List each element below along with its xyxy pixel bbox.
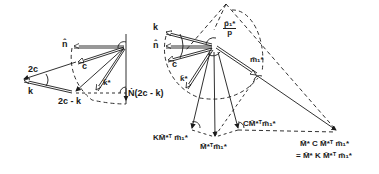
label-CM-m1: CM̃*ᵀm̃₁* bbox=[243, 120, 276, 128]
vector-diagram: n̂ c 2c k 2c - k k̃* Ṅ(2c - k) k n̂ c k̃… bbox=[0, 0, 379, 174]
label-KM-m1: KM̃*ᵀ m̃₁* bbox=[153, 134, 188, 142]
left-figure bbox=[24, 34, 126, 104]
label-c-right: c bbox=[172, 60, 177, 69]
label-N-2c-minus-k: Ṅ(2c - k) bbox=[128, 89, 164, 98]
label-n-right: n̂ bbox=[153, 41, 159, 50]
label-k-right: k bbox=[153, 23, 158, 32]
label-m1-star: m̃₁* bbox=[250, 56, 264, 64]
label-p: p bbox=[227, 29, 232, 37]
label-2c-minus-k: 2c - k bbox=[58, 97, 81, 106]
label-M-m1: M̃*ᵀm̃₁* bbox=[200, 143, 227, 151]
label-k-star: k̃* bbox=[103, 79, 111, 87]
label-n: n̂ bbox=[62, 40, 68, 49]
label-result-line2: = M̃* K M̃*ᵀ m̃₁* bbox=[296, 152, 352, 160]
label-p-ratio: p̃₁* p bbox=[223, 20, 236, 37]
label-k: k bbox=[28, 87, 33, 96]
label-result-line1: M̃* C M̃*ᵀ m̃₁* bbox=[300, 140, 349, 148]
label-c: c bbox=[82, 62, 87, 71]
label-2c: 2c bbox=[28, 65, 38, 74]
label-k-star-right: k̃* bbox=[180, 75, 188, 83]
right-figure bbox=[164, 4, 336, 137]
